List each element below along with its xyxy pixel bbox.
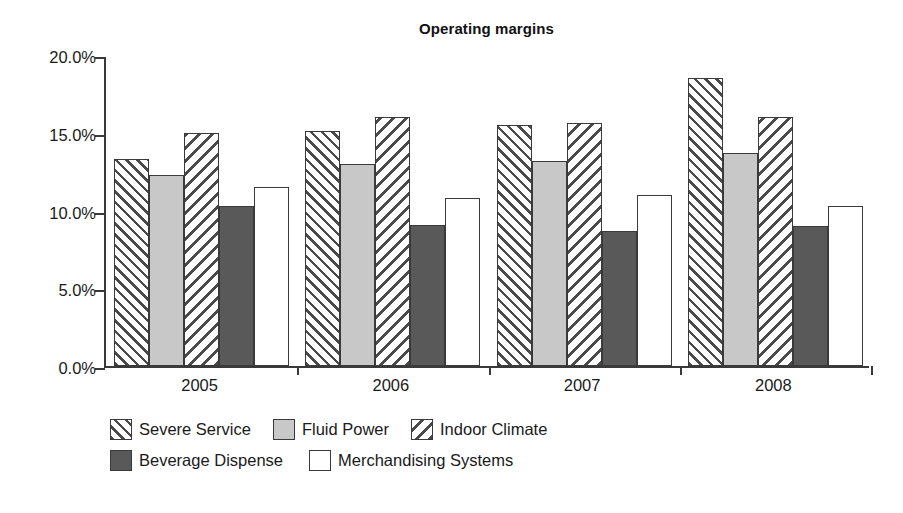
bar-2005-severe-service: [114, 159, 149, 366]
operating-margins-chart: Operating margins 0.0%5.0%10.0%15.0%20.0…: [0, 0, 903, 513]
legend-item-severe-service[interactable]: Severe Service: [110, 419, 251, 440]
y-axis-tick: [95, 368, 105, 370]
bar-2008-indoor-climate: [758, 117, 793, 366]
y-axis-tick-label: 20.0%: [8, 48, 96, 67]
legend-label: Severe Service: [139, 420, 251, 439]
x-axis-tick: [871, 366, 873, 375]
bar-2008-severe-service: [688, 78, 723, 366]
legend-swatch-icon: [110, 419, 132, 440]
bar-2006-merchandising-systems: [445, 198, 480, 366]
legend-swatch-icon: [110, 450, 132, 471]
plot-area: [104, 57, 869, 368]
y-axis-tick: [95, 213, 105, 215]
y-axis-tick-label: 10.0%: [8, 203, 96, 222]
x-axis-label-2005: 2005: [140, 376, 260, 395]
bar-2008-fluid-power: [723, 153, 758, 366]
legend-label: Fluid Power: [302, 420, 389, 439]
bar-2007-severe-service: [497, 125, 532, 366]
legend-item-merchandising-systems[interactable]: Merchandising Systems: [309, 450, 513, 471]
bar-2008-beverage-dispense: [793, 226, 828, 366]
chart-title: Operating margins: [104, 20, 869, 37]
y-axis-tick-label: 15.0%: [8, 125, 96, 144]
bar-2008-merchandising-systems: [828, 206, 863, 366]
bar-2006-fluid-power: [340, 164, 375, 366]
legend-label: Indoor Climate: [440, 420, 547, 439]
legend-swatch-icon: [309, 450, 331, 471]
legend-swatch-icon: [273, 419, 295, 440]
legend-item-fluid-power[interactable]: Fluid Power: [273, 419, 389, 440]
bar-2005-indoor-climate: [184, 133, 219, 366]
bar-2007-indoor-climate: [567, 123, 602, 366]
bar-2007-beverage-dispense: [602, 231, 637, 366]
bar-2007-merchandising-systems: [637, 195, 672, 366]
x-axis-tick: [680, 366, 682, 375]
x-axis-label-2006: 2006: [331, 376, 451, 395]
legend-item-indoor-climate[interactable]: Indoor Climate: [411, 419, 547, 440]
chart-legend: Severe ServiceFluid PowerIndoor ClimateB…: [110, 414, 850, 476]
bar-2006-beverage-dispense: [410, 225, 445, 367]
bar-2006-indoor-climate: [375, 117, 410, 366]
x-axis-label-2007: 2007: [522, 376, 642, 395]
y-axis-tick-label: 5.0%: [8, 281, 96, 300]
x-axis-tick: [297, 366, 299, 375]
bar-2006-severe-service: [305, 131, 340, 366]
legend-label: Merchandising Systems: [338, 451, 513, 470]
y-axis-tick: [95, 57, 105, 59]
legend-row: Beverage DispenseMerchandising Systems: [110, 445, 850, 476]
bar-2007-fluid-power: [532, 161, 567, 366]
legend-item-beverage-dispense[interactable]: Beverage Dispense: [110, 450, 283, 471]
y-axis-tick-label: 0.0%: [8, 359, 96, 378]
legend-swatch-icon: [411, 419, 433, 440]
legend-label: Beverage Dispense: [139, 451, 283, 470]
legend-row: Severe ServiceFluid PowerIndoor Climate: [110, 414, 850, 445]
bar-2005-fluid-power: [149, 175, 184, 366]
x-axis-tick: [489, 366, 491, 375]
bar-2005-beverage-dispense: [219, 206, 254, 366]
y-axis-tick: [95, 135, 105, 137]
bar-2005-merchandising-systems: [254, 187, 289, 366]
x-axis-label-2008: 2008: [713, 376, 833, 395]
y-axis-tick: [95, 290, 105, 292]
